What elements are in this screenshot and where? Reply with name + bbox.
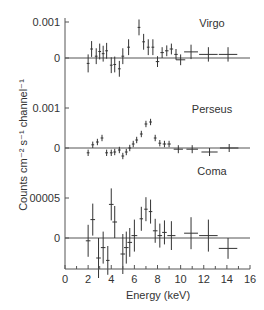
y-tick-label: 0 — [54, 232, 60, 244]
data-point — [142, 34, 145, 50]
data-point — [167, 221, 175, 250]
data-point — [127, 39, 130, 55]
data-point — [151, 39, 154, 55]
data-point — [98, 44, 101, 60]
data-point — [167, 141, 170, 147]
panel-coma: 000005Coma — [29, 165, 250, 278]
data-point — [90, 41, 93, 57]
data-point — [184, 217, 198, 249]
data-point — [149, 119, 152, 125]
data-point — [201, 148, 217, 156]
data-point — [163, 141, 166, 147]
data-point — [87, 54, 90, 72]
data-point — [132, 141, 135, 147]
data-point — [186, 145, 198, 153]
data-point — [86, 225, 91, 257]
data-point — [158, 224, 163, 248]
data-point — [135, 137, 138, 143]
x-tick-label: 16 — [244, 273, 256, 285]
data-point — [199, 220, 218, 252]
data-point — [174, 145, 183, 153]
data-point — [220, 144, 239, 152]
data-point — [102, 46, 105, 62]
data-point — [95, 48, 98, 64]
panels: 00.001Virgo00.001Perseus000005Coma — [29, 16, 250, 278]
panel-label: Perseus — [192, 103, 233, 115]
data-point — [96, 238, 101, 278]
data-point — [184, 45, 198, 59]
panel-label: Virgo — [199, 17, 224, 29]
x-tick-label: 6 — [131, 273, 137, 285]
x-ticks: 0246810121416 — [62, 265, 256, 285]
data-point — [125, 149, 128, 155]
data-point — [154, 135, 157, 141]
data-point — [121, 48, 124, 64]
data-point — [145, 121, 148, 127]
chart: 00.001Virgo00.001Perseus000005Coma 02468… — [0, 0, 264, 310]
data-point — [176, 54, 185, 65]
data-point — [140, 131, 143, 137]
x-tick-label: 8 — [154, 273, 160, 285]
data-point — [101, 232, 106, 264]
data-point — [199, 47, 218, 61]
data-point — [110, 150, 113, 156]
data-point — [144, 197, 147, 221]
x-axis-title: Energy (keV) — [126, 289, 190, 301]
data-point — [96, 139, 99, 145]
y-axis-title: Counts cm⁻² s⁻¹ channel⁻¹ — [17, 79, 29, 211]
x-tick-label: 0 — [62, 273, 68, 285]
data-point — [105, 150, 108, 156]
data-point — [158, 140, 161, 146]
x-tick-label: 4 — [108, 273, 114, 285]
data-point — [162, 220, 167, 244]
data-point — [113, 149, 116, 155]
data-point — [124, 232, 129, 264]
x-tick-label: 2 — [85, 273, 91, 285]
data-point — [131, 220, 137, 252]
y-tick-label: 0 — [54, 142, 60, 154]
data-point — [140, 207, 143, 231]
x-tick-label: 12 — [198, 273, 210, 285]
data-point — [153, 219, 158, 243]
data-point — [149, 200, 152, 224]
x-tick-label: 14 — [221, 273, 233, 285]
data-point — [165, 45, 168, 56]
x-tick-label: 10 — [175, 273, 187, 285]
data-point — [127, 228, 132, 257]
data-point — [219, 238, 238, 259]
data-point — [147, 39, 150, 55]
data-point — [106, 246, 109, 275]
y-tick-label: 0 — [54, 52, 60, 64]
data-point — [87, 150, 90, 156]
data-point — [118, 61, 121, 77]
y-tick-label: 0.001 — [32, 16, 60, 28]
data-point — [121, 153, 124, 159]
y-tick-label: 00005 — [29, 192, 60, 204]
data-point — [112, 206, 117, 238]
data-point — [91, 142, 94, 148]
data-point — [160, 47, 163, 58]
data-point — [110, 57, 113, 73]
data-point — [101, 135, 104, 141]
data-point — [170, 44, 173, 55]
data-point — [109, 188, 114, 220]
data-point — [105, 43, 108, 59]
data-point — [219, 47, 238, 61]
data-point — [128, 145, 131, 151]
data-point — [90, 204, 95, 236]
data-point — [113, 57, 116, 73]
y-tick-label: 0.001 — [32, 102, 60, 114]
panel-label: Coma — [197, 165, 227, 177]
data-point — [138, 19, 141, 35]
